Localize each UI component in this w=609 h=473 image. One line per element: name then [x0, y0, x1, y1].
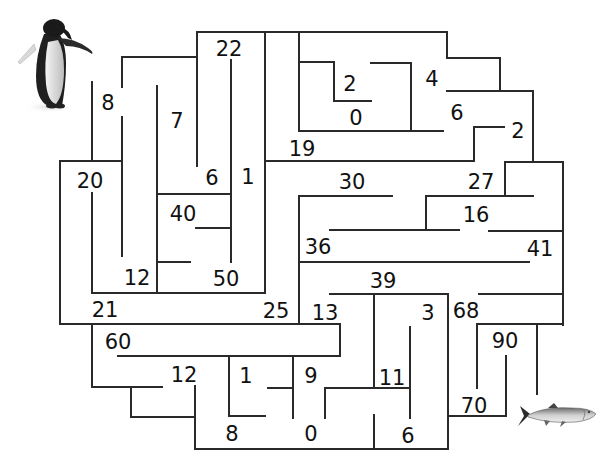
maze-number: 60 — [105, 332, 132, 353]
maze-number: 6 — [401, 426, 414, 447]
maze-number: 27 — [468, 172, 495, 193]
maze-number: 40 — [170, 204, 197, 225]
maze-number: 0 — [304, 424, 317, 445]
maze-number: 4 — [425, 69, 438, 90]
maze-number: 25 — [263, 301, 290, 322]
maze-number: 0 — [349, 108, 362, 129]
maze-number: 21 — [92, 300, 119, 321]
maze-number: 1 — [241, 167, 254, 188]
maze-number: 12 — [124, 268, 151, 289]
maze-number: 3 — [421, 303, 434, 324]
maze-number: 36 — [305, 237, 332, 258]
maze-number: 6 — [450, 103, 463, 124]
maze-number: 7 — [170, 111, 183, 132]
maze-number: 30 — [339, 172, 366, 193]
maze-number: 9 — [304, 366, 317, 387]
maze-number: 1 — [239, 366, 252, 387]
maze-number: 41 — [527, 239, 554, 260]
maze-number: 22 — [216, 39, 243, 60]
maze-number: 16 — [463, 205, 490, 226]
maze-number: 2 — [343, 74, 356, 95]
maze-number: 8 — [225, 424, 238, 445]
salmon-finish-icon — [516, 400, 598, 432]
maze-number: 2 — [511, 121, 524, 142]
maze-number: 39 — [370, 271, 397, 292]
maze-number: 70 — [461, 396, 488, 417]
maze-number: 68 — [453, 301, 480, 322]
maze-number: 50 — [213, 269, 240, 290]
maze-number: 90 — [492, 331, 519, 352]
maze-number: 13 — [312, 303, 339, 324]
maze-number: 6 — [205, 168, 218, 189]
maze-number: 11 — [379, 368, 406, 389]
maze-number: 8 — [101, 93, 114, 114]
maze-number: 20 — [77, 171, 104, 192]
maze-number: 19 — [289, 139, 316, 160]
maze-number: 12 — [171, 365, 198, 386]
penguin-start-icon — [14, 14, 98, 114]
